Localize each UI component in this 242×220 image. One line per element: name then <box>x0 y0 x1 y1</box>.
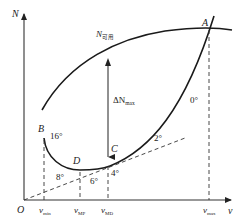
tick-vmax: vmax <box>203 205 216 216</box>
point-b-label: B <box>38 123 44 134</box>
delta-n-label: ΔNmax <box>113 95 135 106</box>
delta-n-arrowhead-top <box>105 58 111 66</box>
point-d-label: D <box>72 155 81 166</box>
angle-2-label: 2° <box>154 133 163 143</box>
point-c-label: C <box>111 143 118 154</box>
angle-16-label: 16° <box>50 131 63 141</box>
angle-0-label: 0° <box>190 95 199 105</box>
angle-4-label: 4° <box>111 168 120 178</box>
tick-vmin: vmin <box>39 205 51 216</box>
x-axis-label: v <box>228 205 233 216</box>
power-curve-diagram: N v O N可用 ΔNmax A B C D 16° 8° 6° 4° 2° … <box>0 0 242 220</box>
available-power-curve <box>42 28 232 110</box>
available-curve-label: N可用 <box>95 29 114 41</box>
point-a-label: A <box>201 17 209 28</box>
y-axis-label: N <box>11 8 20 19</box>
origin-label: O <box>17 204 24 215</box>
angle-6-label: 6° <box>90 176 99 186</box>
angle-8-label: 8° <box>56 172 65 182</box>
tick-vmd: vMD <box>101 205 113 216</box>
tick-vmp: vMP <box>74 205 85 216</box>
tangent-line <box>24 138 185 200</box>
